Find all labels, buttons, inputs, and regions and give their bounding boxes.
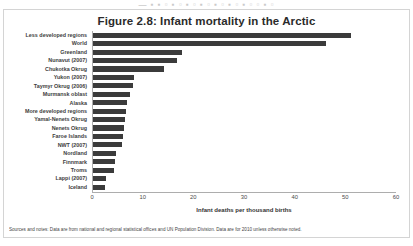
bar: [93, 109, 126, 114]
bar: [93, 176, 106, 181]
category-label: Iceland: [4, 183, 90, 191]
bar: [93, 142, 122, 147]
bar-row: [93, 166, 396, 174]
plot-wrapper: Less developed regionsWorldGreenlandNuna…: [4, 31, 409, 201]
bar: [93, 58, 177, 63]
bar-row: [93, 149, 396, 157]
bar: [93, 151, 116, 156]
bar-row: [93, 56, 396, 64]
bar-series: [93, 31, 396, 192]
category-label: Yamal-Nenets Okrug: [4, 115, 90, 123]
bar: [93, 83, 133, 88]
x-tick-label: 50: [342, 194, 348, 200]
category-label: Yukon (2007): [4, 73, 90, 81]
category-axis-labels: Less developed regionsWorldGreenlandNuna…: [4, 31, 90, 192]
bar: [93, 185, 105, 190]
category-label: Nordland: [4, 149, 90, 157]
bar: [93, 66, 164, 71]
x-tick-label: 20: [190, 194, 196, 200]
bar: [93, 92, 130, 97]
bar-row: [93, 183, 396, 191]
category-label: World: [4, 39, 90, 47]
bar: [93, 134, 123, 139]
category-label: Faroe Islands: [4, 132, 90, 140]
bar-row: [93, 158, 396, 166]
bar: [93, 168, 114, 173]
category-label: Less developed regions: [4, 31, 90, 39]
bar: [93, 41, 326, 46]
bar-row: [93, 115, 396, 123]
bar-row: [93, 132, 396, 140]
bar-row: [93, 31, 396, 39]
bar: [93, 100, 127, 105]
bar-row: [93, 124, 396, 132]
bar-row: [93, 107, 396, 115]
bar-row: [93, 141, 396, 149]
category-label: NWT (2007): [4, 141, 90, 149]
category-label: Finnmark: [4, 158, 90, 166]
category-label: More developed regions: [4, 107, 90, 115]
x-axis-title: Infant deaths per thousand births: [92, 207, 396, 213]
category-label: Greenland: [4, 48, 90, 56]
bar-row: [93, 48, 396, 56]
bar-row: [93, 73, 396, 81]
bar-row: [93, 174, 396, 182]
source-note: Sources and notes: Data are from nationa…: [9, 227, 404, 232]
x-axis-ticks: 0102030405060: [92, 194, 396, 206]
chart-title: Figure 2.8: Infant mortality in the Arct…: [4, 10, 409, 27]
x-tick-label: 60: [393, 194, 399, 200]
bar-row: [93, 65, 396, 73]
category-label: Troms: [4, 166, 90, 174]
x-tick-label: 40: [291, 194, 297, 200]
figure-card: Figure 2.8: Infant mortality in the Arct…: [3, 9, 410, 238]
bar: [93, 159, 115, 164]
bar: [93, 125, 124, 130]
plot-area: [92, 31, 396, 192]
bar: [93, 33, 351, 38]
bar-row: [93, 39, 396, 47]
x-axis-line: [92, 192, 396, 193]
category-label: Nunavut (2007): [4, 56, 90, 64]
bar: [93, 117, 125, 122]
bar-row: [93, 90, 396, 98]
bar-row: [93, 99, 396, 107]
category-label: Chukotka Okrug: [4, 65, 90, 73]
bar: [93, 50, 182, 55]
bar-row: [93, 82, 396, 90]
x-tick-label: 0: [90, 194, 93, 200]
x-tick-label: 10: [139, 194, 145, 200]
cropped-top-artifact: — ▪ ▪ ▫ ▪ ▫ ▪ ▫ ▪ ▫ ▪ ▫ ▪ ▫ ▪ ▫ ▫ ▪ ▫: [0, 0, 413, 9]
category-label: Taymyr Okrug (2006): [4, 82, 90, 90]
category-label: Lappi (2007): [4, 174, 90, 182]
x-tick-label: 30: [241, 194, 247, 200]
category-label: Nenets Okrug: [4, 124, 90, 132]
bar: [93, 75, 134, 80]
artifact-text: — ▪ ▪ ▫ ▪ ▫ ▪ ▫ ▪ ▫ ▪ ▫ ▪ ▫ ▪ ▫ ▫ ▪ ▫: [138, 0, 274, 9]
category-label: Alaska: [4, 99, 90, 107]
category-label: Murmansk oblast: [4, 90, 90, 98]
